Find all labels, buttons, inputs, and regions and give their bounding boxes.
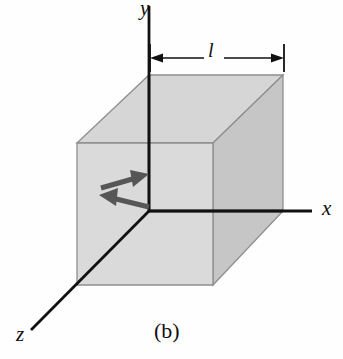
axis-z-label: z (16, 324, 24, 345)
figure-canvas (0, 0, 343, 359)
axis-y-label: y (140, 0, 149, 19)
figure-caption-b: (b) (154, 320, 180, 342)
physics-figure-cube-axes: y x z l (b) (0, 0, 343, 359)
dimension-length-label: l (208, 40, 214, 60)
dimension-arrowhead-left (150, 54, 163, 63)
dimension-arrowhead-right (271, 54, 284, 63)
axis-x-label: x (322, 198, 331, 219)
